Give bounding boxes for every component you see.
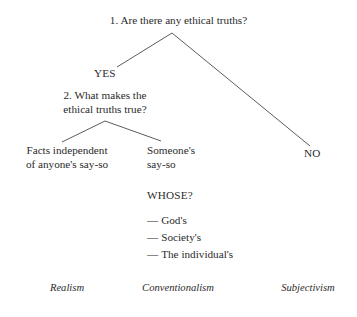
- whose-options-list: —God's —Society's —The individual's: [147, 214, 233, 265]
- list-item: —The individual's: [147, 248, 233, 260]
- term-subjectivism: Subjectivism: [262, 282, 354, 293]
- em-dash-marker: —: [147, 231, 158, 243]
- edge-root-to-yes: [117, 33, 172, 67]
- diagram-canvas: 1. Are there any ethical truths? YES NO …: [0, 0, 357, 317]
- list-item-label: God's: [161, 214, 187, 226]
- second-question: 2. What makes the ethical truths true?: [30, 88, 180, 117]
- term-realism: Realism: [17, 282, 117, 293]
- branch-label-yes: YES: [94, 66, 116, 80]
- list-item-label: The individual's: [161, 248, 233, 260]
- term-conventionalism: Conventionalism: [120, 282, 236, 293]
- branch-label-no: NO: [304, 146, 321, 160]
- edge-root-to-no: [172, 33, 310, 146]
- edge-second-to-left: [62, 121, 105, 142]
- list-item: —God's: [147, 214, 233, 226]
- leaf-someones-say-so: Someone's say-so: [147, 143, 277, 172]
- em-dash-marker: —: [147, 248, 158, 260]
- edge-second-to-middle: [105, 121, 161, 141]
- root-question: 1. Are there any ethical truths?: [0, 13, 357, 27]
- list-item: —Society's: [147, 231, 233, 243]
- leaf-facts-independent: Facts independent of anyone's say-so: [8, 143, 126, 172]
- em-dash-marker: —: [147, 214, 158, 226]
- list-item-label: Society's: [161, 231, 201, 243]
- whose-heading: WHOSE?: [147, 188, 193, 202]
